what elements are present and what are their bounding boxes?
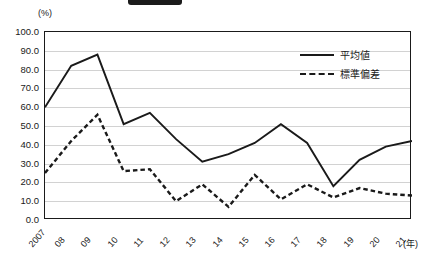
- legend-swatch-stroke: [300, 73, 334, 75]
- x-axis-tick: 08: [53, 235, 67, 249]
- x-axis-tick: 20: [367, 235, 381, 249]
- x-axis-tick: 13: [184, 235, 198, 249]
- y-axis-tick: 80.0: [21, 63, 40, 74]
- cropped-ui-artifact: [128, 0, 182, 5]
- y-axis-tick: 20.0: [21, 176, 40, 187]
- x-axis-tick: 16: [263, 235, 277, 249]
- y-axis-unit-label: (%): [38, 8, 52, 18]
- y-axis-tick-labels: 100.090.080.070.060.050.040.030.020.010.…: [0, 31, 42, 219]
- legend-swatch-stroke: [300, 54, 334, 56]
- y-axis-tick: 60.0: [21, 101, 40, 112]
- chart-legend: 平均値標準偏差: [300, 45, 406, 83]
- y-axis-tick: 50.0: [21, 120, 40, 131]
- y-axis-tick: 70.0: [21, 82, 40, 93]
- series-line-std-dev: [45, 115, 412, 207]
- y-axis-tick: 0.0: [26, 214, 39, 225]
- x-axis-tick: 09: [79, 235, 93, 249]
- x-axis-tick-labels: 20070809101112131415161718192021: [44, 221, 411, 256]
- legend-line-swatch: [300, 50, 334, 60]
- legend-line-swatch: [300, 69, 334, 79]
- legend-entry: 標準偏差: [300, 64, 406, 83]
- legend-label: 標準偏差: [334, 66, 380, 81]
- x-axis-tick: 11: [131, 235, 145, 249]
- y-axis-tick: 100.0: [15, 26, 39, 37]
- legend-label: 平均値: [334, 47, 370, 62]
- x-axis-tick: 12: [158, 235, 172, 249]
- y-axis-tick: 30.0: [21, 157, 40, 168]
- x-axis-tick: 18: [315, 235, 329, 249]
- y-axis-tick: 90.0: [21, 44, 40, 55]
- legend-entry: 平均値: [300, 45, 406, 64]
- x-axis-tick: 17: [289, 235, 303, 249]
- x-axis-unit-label: (年): [403, 237, 418, 250]
- x-axis-tick: 10: [105, 235, 119, 249]
- y-axis-tick: 10.0: [21, 195, 40, 206]
- x-axis-tick: 19: [341, 235, 355, 249]
- x-axis-tick: 14: [210, 235, 224, 249]
- x-axis-tick: 2007: [27, 227, 48, 249]
- x-axis-tick: 15: [236, 235, 250, 249]
- y-axis-tick: 40.0: [21, 138, 40, 149]
